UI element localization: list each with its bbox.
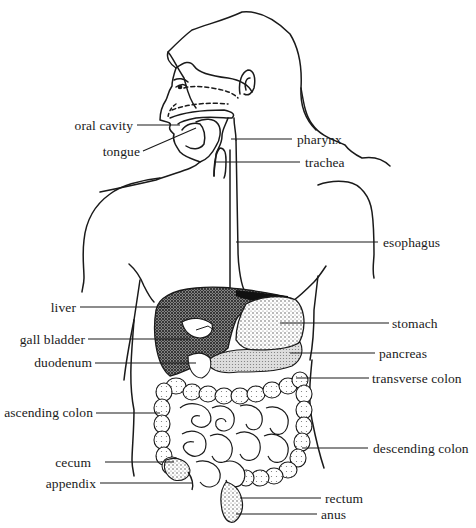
label-cecum: cecum bbox=[20, 456, 91, 470]
label-tongue: tongue bbox=[60, 145, 140, 159]
label-trachea: trachea bbox=[305, 156, 345, 170]
label-esophagus: esophagus bbox=[383, 236, 440, 250]
left-shoulder bbox=[82, 178, 160, 292]
label-pancreas: pancreas bbox=[379, 347, 427, 361]
label-ascending-colon: ascending colon bbox=[0, 406, 93, 420]
right-torso-side bbox=[310, 360, 324, 468]
nasal-cavity bbox=[184, 87, 238, 99]
palate bbox=[170, 110, 234, 124]
label-descending-colon: descending colon bbox=[373, 442, 469, 456]
duodenum-organ bbox=[188, 353, 211, 378]
digestive-system-diagram: oral cavity tongue liver gall bladder du… bbox=[0, 0, 476, 528]
label-rectum: rectum bbox=[325, 492, 363, 506]
transverse-colon-organ bbox=[166, 372, 308, 404]
label-pharynx: pharynx bbox=[297, 133, 342, 147]
left-torso-side bbox=[131, 320, 134, 476]
label-stomach: stomach bbox=[392, 317, 438, 331]
label-oral-cavity: oral cavity bbox=[20, 119, 133, 133]
head-outline bbox=[168, 12, 390, 166]
label-anus: anus bbox=[321, 508, 346, 522]
label-transverse-colon: transverse colon bbox=[372, 372, 462, 386]
label-duodenum: duodenum bbox=[10, 356, 92, 370]
label-liver: liver bbox=[20, 301, 76, 315]
label-appendix: appendix bbox=[10, 477, 96, 491]
rectum-organ bbox=[221, 482, 243, 522]
label-gall-bladder: gall bladder bbox=[10, 333, 85, 347]
tongue-shape bbox=[182, 123, 205, 149]
right-shoulder bbox=[318, 181, 374, 278]
